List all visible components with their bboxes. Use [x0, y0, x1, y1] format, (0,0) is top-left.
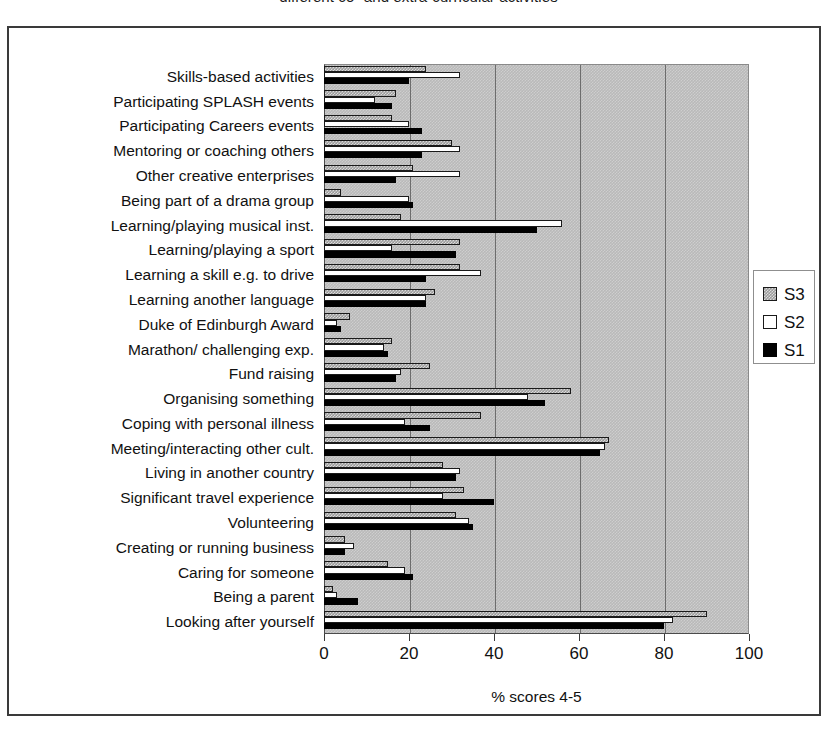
bar-group: [324, 560, 749, 585]
bar-group: [324, 485, 749, 510]
category-label: Being part of a drama group: [121, 193, 314, 209]
x-tick-label: 60: [570, 644, 589, 664]
x-tick-label: 40: [485, 644, 504, 664]
x-tick-100: [749, 634, 750, 641]
bar-rows: [324, 64, 749, 634]
bar-s1: [324, 574, 413, 580]
bar-group: [324, 535, 749, 560]
bar-group: [324, 584, 749, 609]
bar-group: [324, 337, 749, 362]
bar-group: [324, 461, 749, 486]
category-axis-labels: Skills-based activitiesParticipating SPL…: [17, 64, 320, 634]
category-label: Participating Careers events: [119, 118, 314, 134]
category-label: Learning a skill e.g. to drive: [125, 267, 314, 283]
x-axis-ticks: [324, 634, 749, 641]
bar-s1: [324, 128, 422, 134]
bar-s1: [324, 623, 664, 629]
category-label: Being a parent: [213, 589, 314, 605]
white-swatch: [763, 315, 777, 329]
bar-s1: [324, 202, 413, 208]
category-label: Volunteering: [228, 515, 314, 531]
legend-entry-s3: S3: [763, 280, 814, 308]
category-label: Organising something: [163, 391, 314, 407]
legend-label-s1: S1: [784, 342, 805, 359]
bar-group: [324, 64, 749, 89]
legend-label-s2: S2: [784, 314, 805, 331]
bar-group: [324, 287, 749, 312]
bar-group: [324, 609, 749, 634]
category-label: Fund raising: [229, 366, 314, 382]
bar-s1: [324, 400, 545, 406]
category-label: Looking after yourself: [166, 614, 314, 630]
category-label: Creating or running business: [116, 540, 314, 556]
category-label: Coping with personal illness: [122, 416, 314, 432]
bar-group: [324, 510, 749, 535]
legend-entry-s1: S1: [763, 336, 814, 364]
bar-s1: [324, 351, 388, 357]
bar-group: [324, 386, 749, 411]
black-swatch: [763, 343, 777, 357]
category-label: Significant travel experience: [120, 490, 314, 506]
chart-figure: different co- and extra-curricular activ…: [0, 0, 837, 743]
x-tick-label: 20: [400, 644, 419, 664]
bar-group: [324, 188, 749, 213]
bar-group: [324, 237, 749, 262]
bar-group: [324, 262, 749, 287]
legend-entry-s2: S2: [763, 308, 814, 336]
category-label: Living in another country: [145, 465, 314, 481]
bar-s1: [324, 549, 345, 555]
category-label: Duke of Edinburgh Award: [139, 317, 315, 333]
bar-s1: [324, 78, 409, 84]
category-label: Caring for someone: [178, 565, 314, 581]
category-label: Marathon/ challenging exp.: [128, 342, 314, 358]
x-tick-label: 80: [655, 644, 674, 664]
category-label: Participating SPLASH events: [113, 94, 314, 110]
bar-s1: [324, 103, 392, 109]
x-tick-20: [409, 634, 410, 641]
x-axis-title: % scores 4-5: [324, 688, 749, 706]
bar-s1: [324, 251, 456, 257]
x-axis-tick-labels: 020406080100: [324, 644, 749, 668]
bar-s1: [324, 152, 422, 158]
bar-s1: [324, 326, 341, 332]
legend: S3 S2 S1: [753, 270, 815, 364]
bar-s1: [324, 177, 396, 183]
x-tick-0: [324, 634, 325, 641]
bar-s1: [324, 375, 396, 381]
bar-s1: [324, 301, 426, 307]
x-tick-80: [664, 634, 665, 641]
bar-s1: [324, 524, 473, 530]
category-label: Mentoring or coaching others: [113, 143, 314, 159]
bar-group: [324, 163, 749, 188]
bar-group: [324, 411, 749, 436]
x-tick-40: [494, 634, 495, 641]
gray-dotted-swatch: [763, 287, 777, 301]
bar-group: [324, 89, 749, 114]
x-tick-60: [579, 634, 580, 641]
category-label: Learning/playing musical inst.: [111, 218, 314, 234]
category-label: Learning another language: [129, 292, 314, 308]
bar-s1: [324, 499, 494, 505]
x-tick-label: 0: [319, 644, 328, 664]
category-label: Other creative enterprises: [136, 168, 314, 184]
bar-s1: [324, 276, 426, 282]
category-label: Learning/playing a sport: [149, 242, 314, 258]
bar-s1: [324, 598, 358, 604]
chart-frame: Skills-based activitiesParticipating SPL…: [7, 26, 821, 716]
bar-s1: [324, 474, 456, 480]
bar-group: [324, 213, 749, 238]
bar-s1: [324, 425, 430, 431]
bar-s1: [324, 450, 600, 456]
figure-title: different co- and extra-curricular activ…: [0, 0, 837, 5]
bar-group: [324, 114, 749, 139]
bar-group: [324, 312, 749, 337]
legend-label-s3: S3: [784, 286, 805, 303]
bar-group: [324, 138, 749, 163]
bar-s1: [324, 227, 537, 233]
category-label: Meeting/interacting other cult.: [111, 441, 314, 457]
bar-group: [324, 361, 749, 386]
category-label: Skills-based activities: [167, 69, 314, 85]
x-tick-label: 100: [735, 644, 763, 664]
bar-group: [324, 436, 749, 461]
